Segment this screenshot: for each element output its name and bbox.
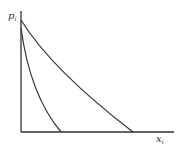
inner-curve — [21, 28, 61, 132]
outer-curve — [21, 20, 133, 132]
demand-curves-diagram: pi xi — [0, 0, 185, 150]
x-axis-label: xi — [156, 133, 164, 145]
y-axis-label: pi — [8, 10, 16, 22]
